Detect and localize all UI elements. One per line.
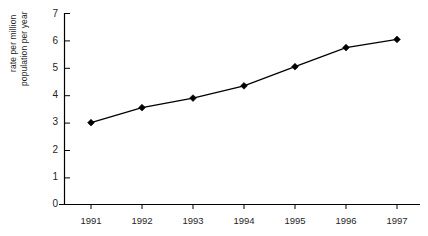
x-axis-ticks (91, 205, 397, 210)
data-point-1995 (292, 63, 299, 70)
series-markers (88, 36, 401, 126)
data-point-1997 (394, 36, 401, 43)
line-chart: rate per million population per year 7 6… (0, 0, 428, 236)
series-line (91, 39, 397, 122)
data-point-1992 (139, 104, 146, 111)
plot-area (0, 0, 428, 236)
data-point-1996 (343, 44, 350, 51)
data-point-1994 (241, 82, 248, 89)
data-point-1993 (190, 95, 197, 102)
data-series (88, 36, 401, 126)
data-point-1991 (88, 119, 95, 126)
